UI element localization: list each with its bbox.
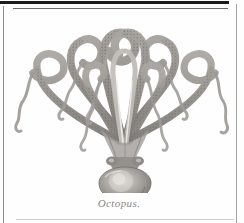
octopus-illustration <box>5 11 235 193</box>
octopus-engraving-svg <box>5 11 235 193</box>
page-left-rule <box>3 6 4 223</box>
octopus-mantle <box>99 167 151 193</box>
page-top-thick-rule <box>0 1 229 4</box>
page-bottom-rule <box>16 219 234 220</box>
page-top-thin-rule <box>13 8 228 9</box>
page-right-rule <box>236 4 237 223</box>
scanned-page: Octopus. <box>0 0 244 223</box>
plate-caption: Octopus. <box>0 197 238 209</box>
